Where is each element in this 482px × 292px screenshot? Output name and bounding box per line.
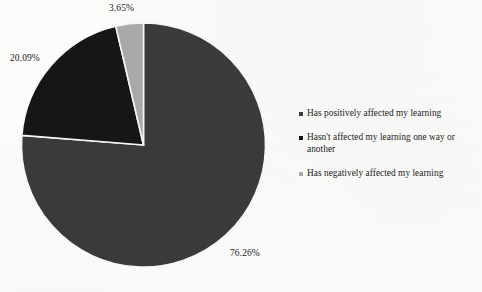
- legend-item-has-negatively-affected-my-learning[interactable]: Has negatively affected my learning: [299, 168, 477, 179]
- legend-label-positive: Has positively affected my learning: [307, 108, 441, 119]
- data-label-hasnt-affected-my-learning-one-way-or-another: 20.09%: [10, 53, 40, 63]
- data-label-has-positively-affected-my-learning: 76.26%: [230, 248, 260, 258]
- pie-chart-figure: 3.65% 20.09% 76.26% Has positively affec…: [0, 0, 482, 292]
- legend-label-negative: Has negatively affected my learning: [307, 168, 443, 179]
- legend-item-has-positively-affected-my-learning[interactable]: Has positively affected my learning: [299, 108, 477, 119]
- pie-slice-group: [21, 23, 265, 267]
- chart-legend: Has positively affected my learning Hasn…: [299, 108, 477, 179]
- legend-swatch-icon-negative: [299, 172, 303, 176]
- legend-swatch-icon-neutral: [299, 136, 303, 140]
- data-label-has-negatively-affected-my-learning: 3.65%: [109, 3, 134, 13]
- legend-swatch-icon-positive: [299, 112, 303, 116]
- legend-item-hasnt-affected-my-learning-one-way-or-another[interactable]: Hasn't affected my learning one way or a…: [299, 132, 477, 155]
- legend-label-neutral: Hasn't affected my learning one way or a…: [307, 132, 477, 155]
